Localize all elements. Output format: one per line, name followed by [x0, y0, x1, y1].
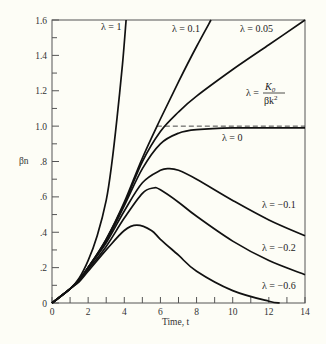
chart: 0.2.4.6.81.01.21.41.602468101214 λ = 1 λ… — [0, 0, 326, 344]
y-tick-label: 1.2 — [35, 86, 47, 96]
series-1 — [52, 20, 126, 303]
y-axis-label: βn — [19, 156, 29, 166]
y-tick-label: .8 — [40, 157, 47, 167]
y-tick-label: 1.4 — [35, 51, 47, 61]
label-lambda-neg0.2: λ = −0.2 — [262, 242, 296, 253]
x-tick-label: 12 — [264, 307, 274, 317]
label-lambda-k0: λ = K0 βk2 — [246, 81, 285, 106]
lambda-k-prefix: λ = — [246, 87, 259, 98]
y-tick-label: 1.6 — [35, 16, 47, 26]
label-lambda-neg0.6: λ = −0.6 — [262, 280, 296, 291]
x-tick-label: 0 — [50, 307, 55, 317]
label-lambda-0.05: λ = 0.05 — [240, 23, 273, 34]
series-0.1 — [52, 20, 211, 303]
x-tick-label: 2 — [86, 307, 91, 317]
lambda-k-denominator: βk2 — [264, 94, 278, 106]
label-lambda-neg0.1: λ = −0.1 — [262, 199, 296, 210]
lambda-k-numerator: K0 — [264, 81, 276, 94]
curves — [52, 20, 305, 303]
y-tick-label: .2 — [40, 263, 47, 273]
x-axis-label: Time, t — [162, 317, 189, 327]
x-tick-label: 14 — [300, 307, 310, 317]
label-lambda-0.1: λ = 0.1 — [172, 23, 200, 34]
y-tick-label: .6 — [40, 192, 47, 202]
y-tick-label: 1.0 — [35, 122, 47, 132]
y-tick-label: 0 — [42, 299, 47, 309]
curve-labels: λ = 1 λ = 0.1 λ = 0.05 λ = K0 βk2 λ = 0 … — [101, 21, 296, 291]
x-tick-label: 10 — [228, 307, 238, 317]
label-lambda-1: λ = 1 — [101, 21, 122, 32]
y-tick-label: .4 — [40, 228, 47, 238]
x-tick-label: 4 — [122, 307, 127, 317]
series-0 — [52, 128, 305, 303]
axes: 0.2.4.6.81.01.21.41.602468101214 — [35, 16, 310, 318]
x-tick-label: 6 — [158, 307, 163, 317]
label-lambda-0: λ = 0 — [222, 132, 243, 143]
x-tick-label: 8 — [194, 307, 199, 317]
